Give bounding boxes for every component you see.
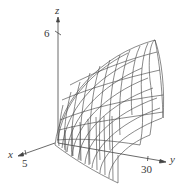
wireframe-surface [55,40,164,183]
z-axis-arrow-icon [57,17,60,22]
x-axis-line [21,143,55,155]
y-axis-label: y [170,154,175,165]
plot-canvas [0,0,191,188]
x-tick-label: 5 [22,158,28,169]
surface-plot-figure: z 6 x 5 y 30 [0,0,191,188]
axes [18,17,166,163]
x-axis-label: x [8,149,13,160]
x-tick-5 [25,150,26,155]
z-axis-label: z [55,5,59,16]
y-axis-arrow-icon [160,160,167,164]
x-axis-arrow-icon [18,153,24,157]
y-tick-label: 30 [141,164,152,175]
z-tick-label: 6 [44,28,50,39]
y-tick-30 [148,156,149,161]
